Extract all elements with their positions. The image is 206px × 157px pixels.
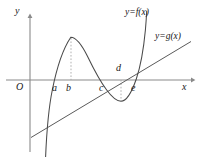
curve-g-label: y=g(x) (155, 32, 181, 42)
tick-label-d: d (116, 63, 121, 73)
origin-label: O (16, 82, 23, 92)
tick-label-c: c (99, 83, 103, 93)
curve-f-label: y=f(x) (125, 8, 149, 18)
tick-label-a: a (52, 83, 57, 93)
tick-label-e: e (131, 83, 135, 93)
y-axis-label: y (15, 6, 19, 16)
graph-figure: y x O a b c d e y=f(x) y=g(x) (0, 0, 206, 157)
plot-canvas (0, 0, 206, 157)
tick-label-b: b (66, 83, 71, 93)
x-axis-label: x (182, 82, 186, 92)
